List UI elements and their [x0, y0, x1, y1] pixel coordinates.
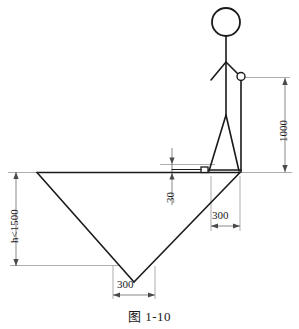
arrow-h1500-bottom — [13, 259, 18, 266]
arrow-h1500-top — [13, 172, 18, 179]
figure-drawing-canvas — [0, 0, 299, 329]
figure-caption: 图 1-10 — [0, 306, 299, 325]
worker-left-arm — [211, 62, 226, 80]
engineering-figure: 1000 30 300 300 h<1500 图 1-10 — [0, 0, 299, 329]
worker-right-leg — [226, 115, 239, 171]
arrow-1000-bottom — [282, 165, 287, 172]
worker-left-leg — [209, 115, 226, 171]
dim-label-trench-depth: h<1500 — [9, 209, 20, 243]
dim-label-trench-bottom-width: 300 — [117, 279, 134, 290]
worker-right-arm — [226, 62, 238, 74]
worker-hand-circle — [237, 73, 245, 81]
dim-label-worker-height: 1000 — [278, 120, 289, 142]
arrow-300-bottom-left — [113, 292, 120, 297]
worker-head-circle — [212, 8, 240, 36]
shovel-blade — [201, 167, 208, 173]
arrow-300-right-right — [233, 223, 240, 228]
dim-label-ground-offset: 30 — [165, 192, 176, 203]
arrow-1000-top — [282, 78, 287, 85]
arrow-300-bottom-right — [148, 292, 155, 297]
arrow-300-right-left — [211, 223, 218, 228]
trench-right-slope — [134, 173, 240, 283]
dim-label-edge-distance: 300 — [212, 210, 229, 221]
arrow-30-upper — [169, 158, 174, 165]
arrow-30-lower — [169, 173, 174, 180]
